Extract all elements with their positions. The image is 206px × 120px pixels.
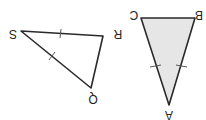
vertex-label-q: Q: [88, 92, 97, 106]
triangle-abc-shape: [141, 18, 195, 105]
vertex-label-r: R: [113, 27, 122, 41]
tick-mark-sr: [60, 29, 61, 38]
vertex-label-s: S: [9, 27, 17, 41]
vertex-label-a: A: [165, 108, 173, 120]
triangles-figure: S R Q C B A: [0, 0, 206, 120]
diagram-canvas: S R Q C B A: [0, 0, 206, 120]
vertex-label-b: B: [195, 8, 203, 22]
vertex-label-c: C: [129, 8, 138, 22]
triangle-abc: [141, 18, 195, 105]
triangle-srq-outline: [21, 31, 103, 88]
triangle-srq: [21, 29, 103, 88]
